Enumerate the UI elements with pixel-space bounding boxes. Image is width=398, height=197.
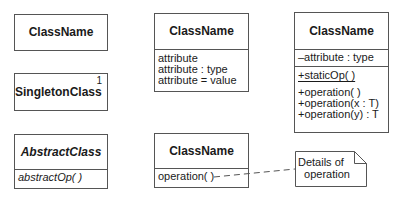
class-box-singleton: SingletonClass 1 <box>14 73 108 111</box>
operation-item: abstractOp( ) <box>18 172 104 183</box>
class-box-attributes: ClassName attribute attribute : type att… <box>154 13 249 92</box>
class-box-abstract: AbstractClass abstractOp( ) <box>14 134 108 189</box>
operations-compartment: abstractOp( ) <box>15 169 107 185</box>
class-box-operation: ClassName operation( ) <box>154 133 249 188</box>
note: Details of operation <box>296 156 358 180</box>
operation-item: operation( ) <box>158 171 245 182</box>
class-name: SingletonClass <box>15 74 107 110</box>
class-name: ClassName <box>295 13 388 49</box>
attribute-item: –attribute : type <box>298 52 385 63</box>
class-name: ClassName <box>155 14 248 49</box>
attributes-compartment: attribute attribute : type attribute = v… <box>155 49 248 88</box>
class-name: ClassName <box>155 134 248 168</box>
class-name: AbstractClass <box>15 135 107 169</box>
multiplicity-label: 1 <box>96 75 102 86</box>
class-box-simple: ClassName <box>14 14 108 51</box>
static-operation-item: +staticOp( ) <box>298 70 385 81</box>
class-box-full: ClassName –attribute : type +staticOp( )… <box>294 12 389 133</box>
attribute-item: attribute = value <box>158 75 245 86</box>
operation-item: +operation(y) : T <box>298 109 385 120</box>
operations-compartment: +staticOp( ) +operation( ) +operation(x … <box>295 66 388 122</box>
attributes-compartment: –attribute : type <box>295 49 388 66</box>
note-line: operation <box>296 168 358 180</box>
note-line: Details of <box>296 156 358 168</box>
operations-compartment: operation( ) <box>155 168 248 184</box>
class-name: ClassName <box>15 15 107 50</box>
